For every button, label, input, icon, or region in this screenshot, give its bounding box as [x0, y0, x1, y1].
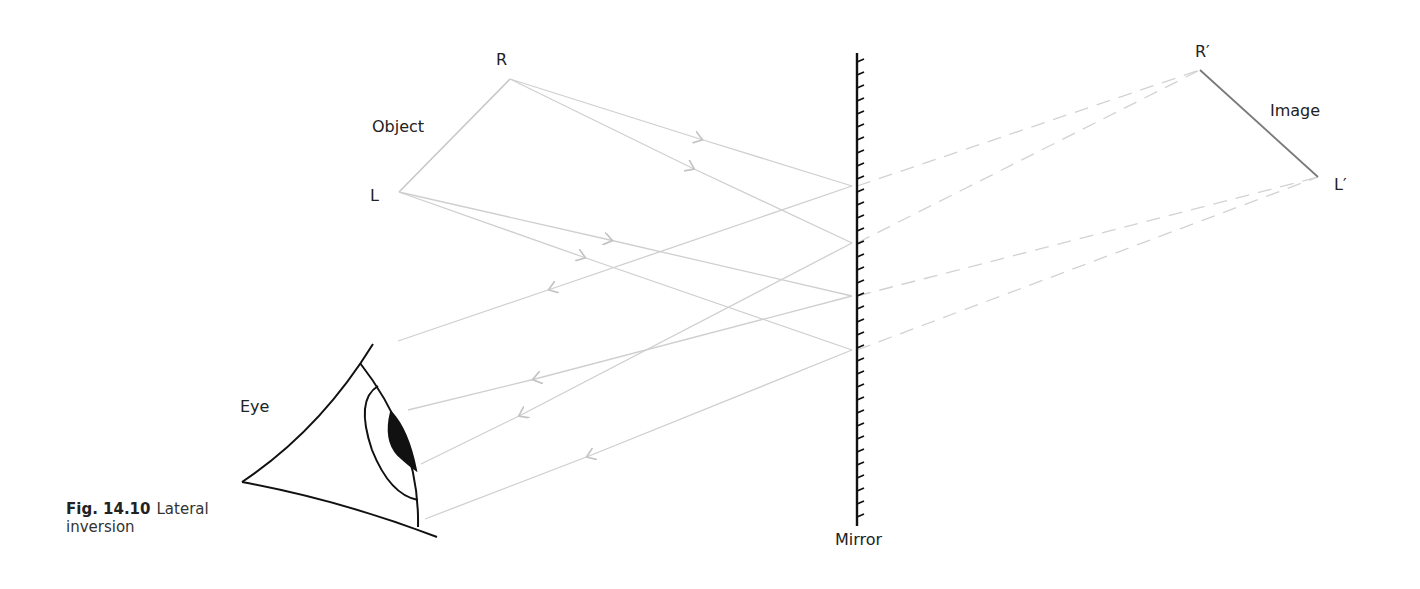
eye-label: Eye — [240, 397, 269, 416]
lateral-inversion-diagram — [0, 0, 1420, 589]
object-label: Object — [372, 117, 424, 136]
figure-title-line2: inversion — [66, 518, 209, 536]
image-bottom-label: L′ — [1334, 175, 1347, 194]
mirror-label: Mirror — [835, 530, 882, 549]
object-top-label: R — [496, 50, 507, 69]
incident-rays — [399, 79, 852, 350]
image-line — [1200, 70, 1318, 177]
mirror — [857, 53, 864, 526]
figure-number: Fig. 14.10 — [66, 500, 151, 518]
virtual-rays — [857, 70, 1318, 350]
image-top-label: R′ — [1195, 42, 1210, 61]
reflected-rays — [398, 186, 852, 519]
image-label: Image — [1270, 101, 1320, 120]
figure-title-line1: Lateral — [157, 500, 209, 518]
object-bottom-label: L — [370, 186, 379, 205]
eye-drawing — [242, 344, 437, 537]
figure-caption: Fig. 14.10Lateral inversion — [66, 500, 209, 536]
